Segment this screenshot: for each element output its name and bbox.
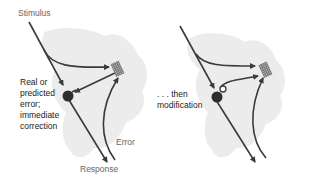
error-label: Error (116, 137, 135, 147)
left-comparator-node (63, 91, 74, 102)
right-comparator-node (212, 92, 223, 103)
right-cloud (187, 33, 285, 157)
right-open-node (220, 86, 226, 92)
left-annotation-line-1: Real or (20, 77, 47, 87)
left-annotation-line-3: error; (20, 99, 40, 109)
right-annotation-line-1: . . . then (157, 89, 188, 99)
left-annotation-line-4: immediate (20, 110, 59, 120)
diagram: Stimulus Real or predicted error; immedi… (0, 0, 309, 185)
left-annotation-line-2: predicted (20, 88, 55, 98)
stimulus-label: Stimulus (18, 8, 51, 18)
right-annotation-line-2: modification (157, 100, 202, 110)
response-label: Response (80, 164, 118, 174)
left-annotation-line-5: correction (20, 121, 57, 131)
